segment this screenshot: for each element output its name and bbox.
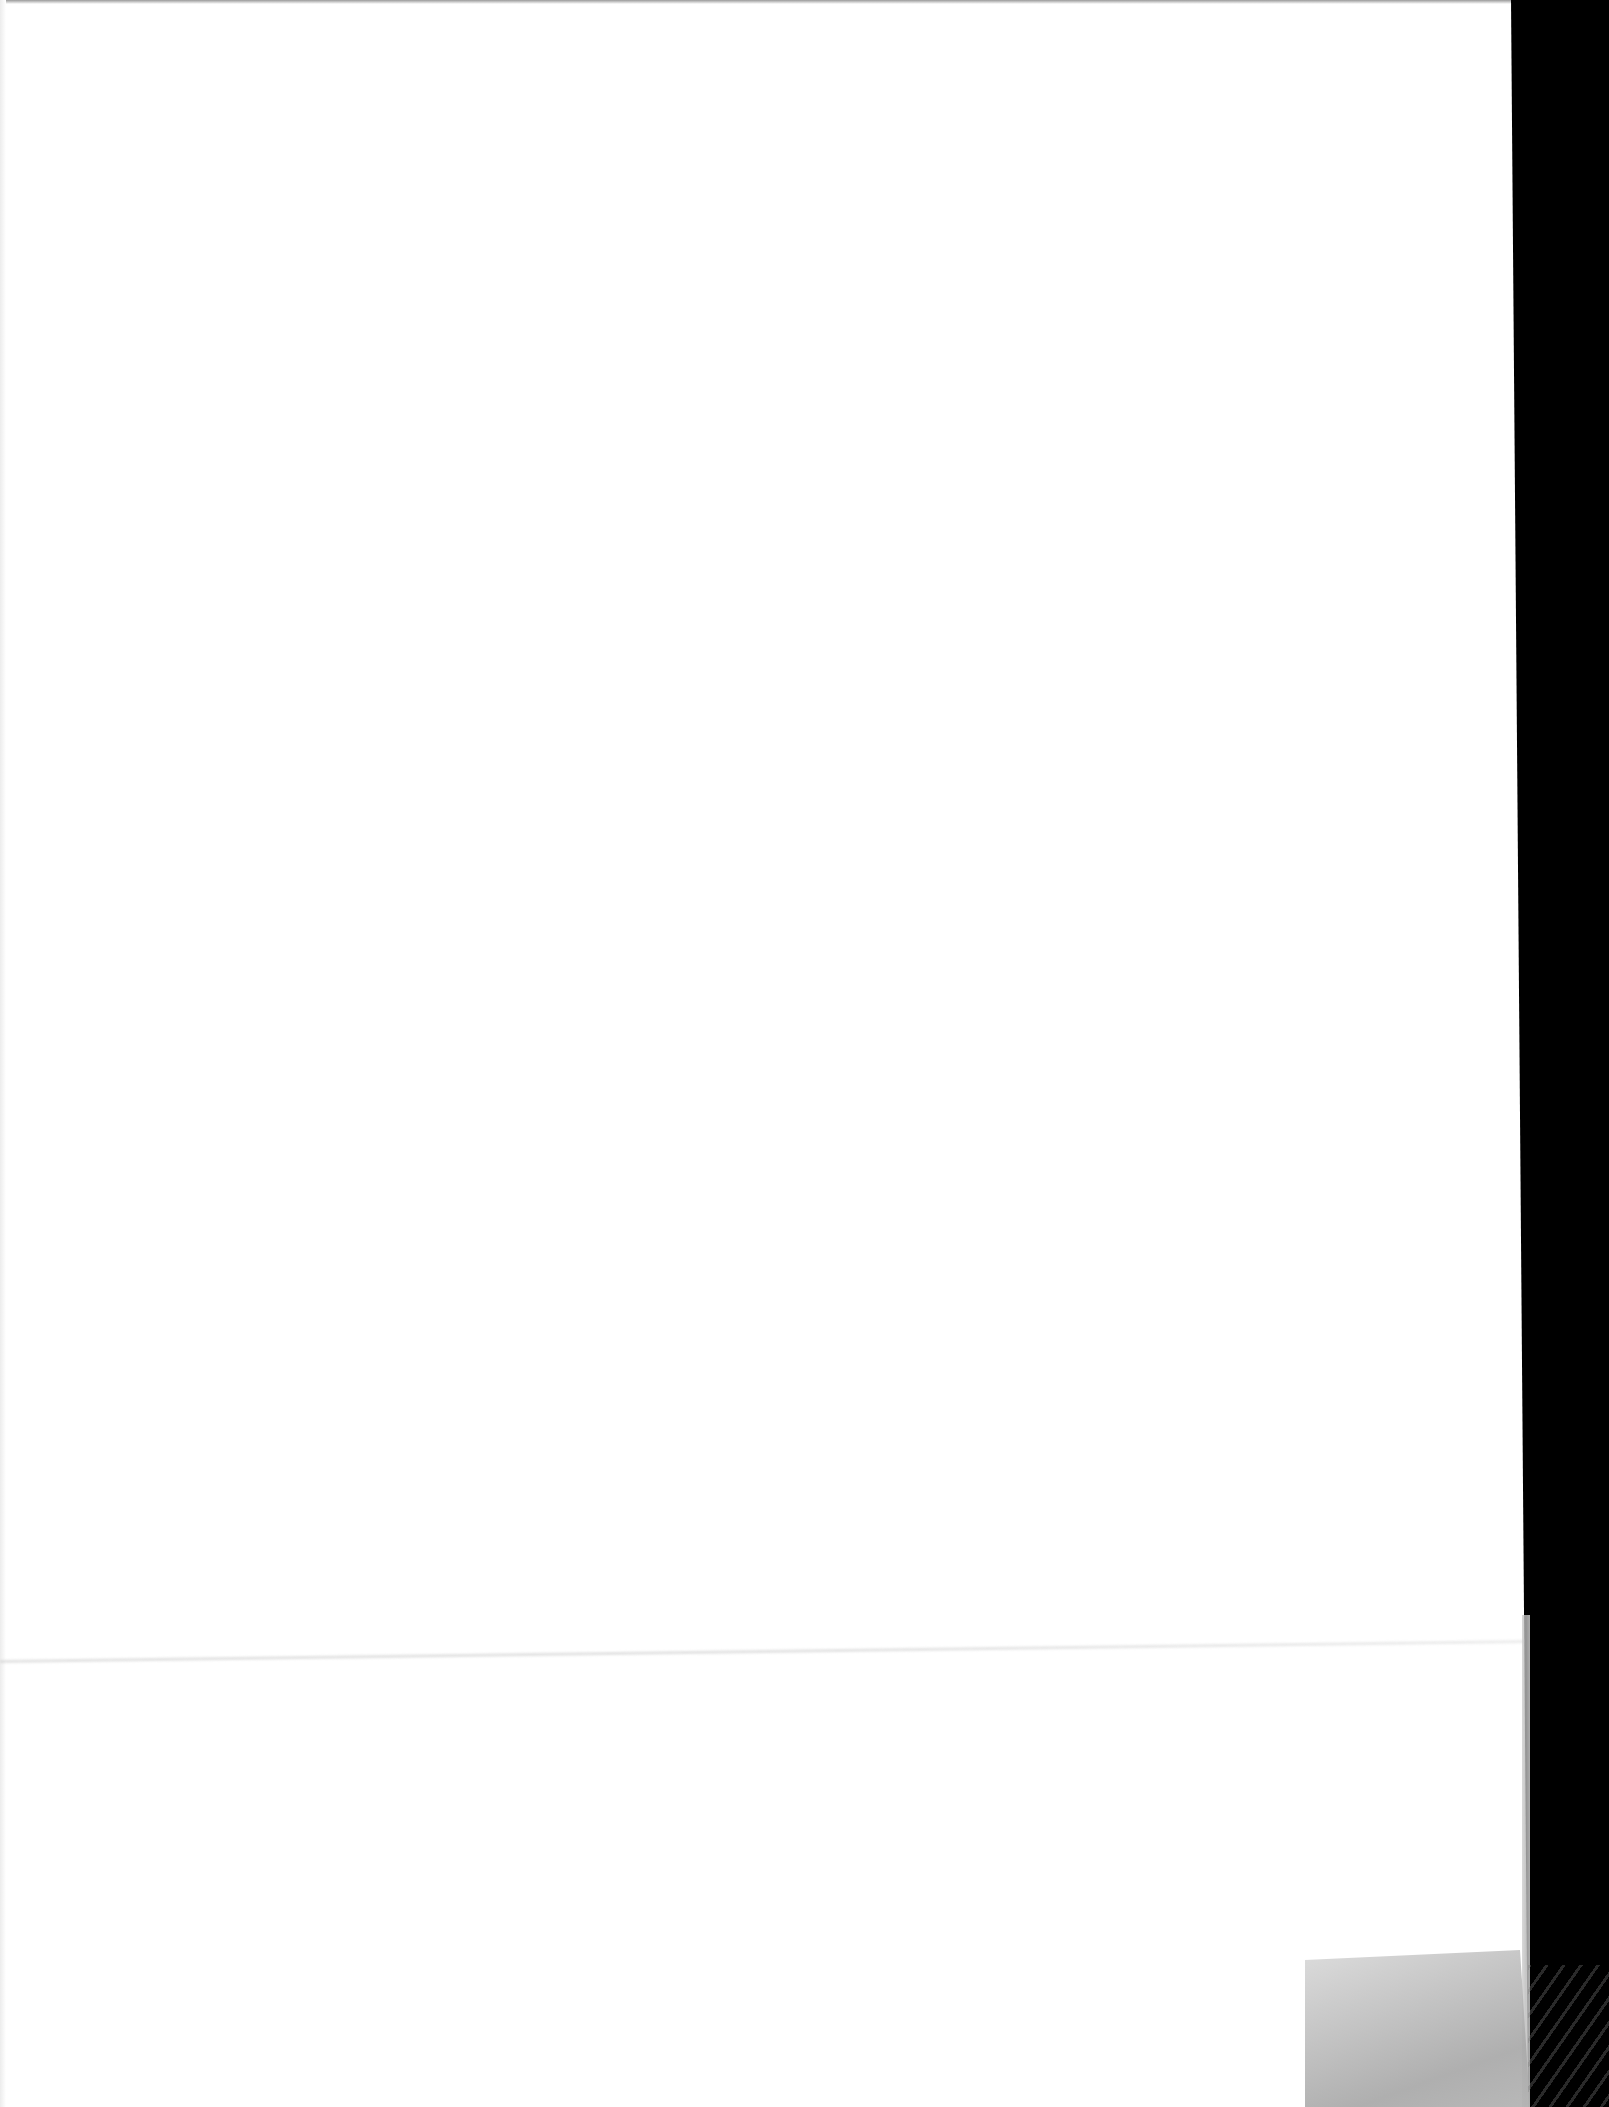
blank-page xyxy=(0,0,1528,2107)
page-left-shadow xyxy=(0,0,6,2107)
tape-overhang xyxy=(1528,1965,1609,2107)
paper-crease xyxy=(0,1640,1530,1663)
page-top-shadow xyxy=(0,0,1528,4)
